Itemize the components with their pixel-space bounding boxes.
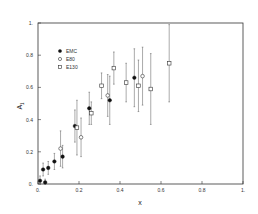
y-tick-label: 0.2: [26, 149, 33, 155]
filled-circle-marker: [41, 168, 45, 172]
y-tick-label: 0.4: [26, 117, 33, 123]
x-tick-label: 0.: [36, 187, 40, 193]
x-axis-title: x: [138, 199, 142, 206]
legend-label: EMC: [66, 48, 78, 54]
filled-circle-marker: [43, 181, 47, 185]
y-tick-label: 0.8: [26, 52, 33, 58]
y-tick-label: 0.6: [26, 84, 33, 90]
x-axis-ticks: 0.0.20.40.60.81.: [36, 181, 245, 193]
open-square-marker: [75, 126, 79, 130]
x-tick-label: 0.6: [158, 187, 165, 193]
scatter-chart: 0.0.20.40.60.81. 0.0.20.40.60.81. x A1 E…: [0, 0, 258, 214]
y-axis-title: A1: [16, 102, 25, 110]
data-series: [38, 25, 171, 185]
legend-label: E80: [66, 56, 75, 62]
y-tick-label: 1.: [29, 20, 33, 26]
y-axis-ticks: 0.0.20.40.60.81.: [26, 20, 41, 187]
filled-circle-marker: [53, 160, 57, 164]
x-tick-label: 0.4: [117, 187, 124, 193]
filled-circle-marker: [46, 166, 50, 170]
x-tick-label: 0.8: [199, 187, 206, 193]
open-square-marker: [100, 84, 104, 88]
open-circle-marker: [141, 74, 145, 78]
open-square-marker: [58, 65, 61, 68]
open-circle-marker: [58, 57, 61, 60]
filled-circle-marker: [108, 98, 112, 102]
series-emc: [38, 49, 136, 184]
filled-circle-marker: [87, 107, 91, 111]
filled-circle-marker: [58, 49, 61, 52]
open-square-marker: [149, 87, 153, 91]
x-tick-label: 1.: [241, 187, 245, 193]
open-square-marker: [112, 66, 116, 70]
open-square-marker: [137, 84, 141, 88]
x-tick-label: 0.2: [76, 187, 83, 193]
series-e130: [75, 25, 171, 155]
open-square-marker: [167, 61, 171, 65]
filled-circle-marker: [133, 76, 137, 80]
legend: EMCE80E130: [58, 48, 77, 70]
svg-text:A1: A1: [16, 102, 25, 110]
open-square-marker: [90, 111, 94, 115]
open-circle-marker: [79, 136, 83, 140]
open-circle-marker: [59, 147, 63, 151]
filled-circle-marker: [61, 155, 65, 159]
legend-label: E130: [66, 64, 78, 70]
open-square-marker: [124, 81, 128, 85]
y-tick-label: 0.: [29, 181, 33, 187]
open-circle-marker: [106, 94, 110, 98]
filled-circle-marker: [38, 179, 42, 183]
